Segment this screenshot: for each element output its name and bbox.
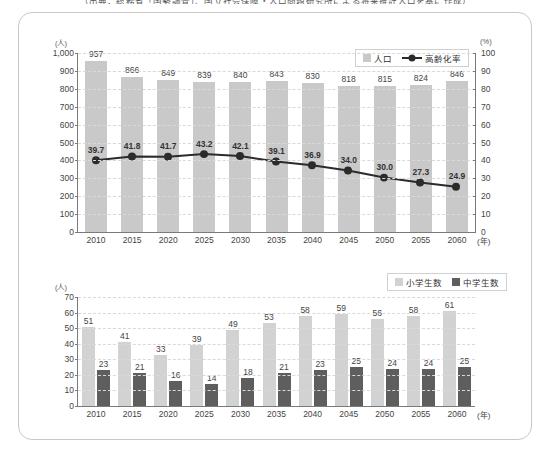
population-bar[interactable] [446, 81, 468, 232]
population-bar[interactable] [121, 77, 143, 232]
axis-tick-mark [473, 160, 476, 161]
chart2-legend: 小学生数 中学生数 [387, 273, 507, 291]
elementary-bar[interactable]: 58 [407, 316, 420, 406]
aging-rate-value-label: 41.7 [160, 141, 177, 151]
elementary-bar[interactable]: 49 [226, 330, 239, 406]
axis-tick-mark [75, 313, 78, 314]
x-axis-tick: 2045 [331, 409, 367, 419]
x-axis-tick: 2040 [295, 235, 331, 245]
gridline [78, 53, 475, 54]
axis-tick-mark [75, 232, 78, 233]
gridline [78, 328, 475, 329]
y-axis-tick: 0 [69, 227, 74, 237]
aging-rate-value-label: 30.0 [376, 162, 393, 172]
gridline [78, 344, 475, 345]
y2-axis-tick: 30 [481, 173, 490, 183]
bar-value-label: 824 [414, 73, 428, 83]
gridline [78, 390, 475, 391]
axis-tick-mark [473, 143, 476, 144]
y2-axis-tick: 40 [481, 155, 490, 165]
aging-rate-value-label: 36.9 [304, 150, 321, 160]
y-axis-tick: 400 [60, 155, 74, 165]
x-axis-tick: 2020 [150, 235, 186, 245]
elementary-bar[interactable]: 56 [371, 319, 384, 406]
population-bar[interactable] [229, 82, 251, 232]
axis-tick-mark [75, 390, 78, 391]
y2-axis-tick: 10 [481, 209, 490, 219]
x-axis-tick: 2050 [367, 235, 403, 245]
y-axis-tick: 800 [60, 84, 74, 94]
gridline [78, 313, 475, 314]
charts-card: (人) (%) 人口 高齢化率 957866849839840843830818… [18, 12, 532, 440]
y-axis-tick: 50 [65, 323, 74, 333]
bar-value-label: 61 [445, 300, 454, 310]
y-axis-tick: 600 [60, 120, 74, 130]
y-axis-tick: 20 [65, 370, 74, 380]
bar-value-label: 41 [120, 331, 129, 341]
elementary-bar[interactable]: 51 [82, 327, 95, 406]
population-bar[interactable] [193, 82, 215, 232]
y-axis-tick: 700 [60, 102, 74, 112]
chart1-right-axis-unit: (%) [480, 37, 492, 46]
chart2-plot-area: 5123412133163914491853215823592556245824… [77, 297, 475, 407]
axis-tick-mark [75, 375, 78, 376]
axis-tick-mark [75, 178, 78, 179]
population-aging-chart: (人) (%) 人口 高齢化率 957866849839840843830818… [33, 31, 519, 257]
aging-rate-value-label: 27.3 [413, 167, 430, 177]
aging-rate-value-label: 39.1 [268, 146, 285, 156]
elementary-bar[interactable]: 58 [299, 316, 312, 406]
x-axis-tick: 2050 [367, 409, 403, 419]
gridline [78, 214, 475, 215]
y-axis-tick: 300 [60, 173, 74, 183]
legend-label-junior-high: 中学生数 [463, 276, 499, 288]
axis-tick-mark [75, 71, 78, 72]
bar-value-label: 25 [351, 356, 360, 366]
y2-axis-tick: 70 [481, 102, 490, 112]
legend-item-junior-high: 中学生数 [452, 276, 499, 288]
gridline [78, 107, 475, 108]
population-bar[interactable] [374, 86, 396, 232]
aging-rate-value-label: 42.1 [232, 141, 249, 151]
junior-high-bar[interactable]: 25 [458, 367, 471, 406]
x-axis-tick: 2045 [331, 235, 367, 245]
bar-value-label: 21 [135, 362, 144, 372]
population-bar[interactable] [157, 80, 179, 232]
chart2-x-axis-unit: (年) [477, 409, 490, 420]
junior-high-bar[interactable]: 25 [350, 367, 363, 406]
junior-high-bar[interactable]: 16 [169, 381, 182, 406]
y2-axis-tick: 80 [481, 84, 490, 94]
junior-high-bar[interactable]: 18 [241, 378, 254, 406]
y2-axis-tick: 60 [481, 120, 490, 130]
axis-tick-mark [75, 89, 78, 90]
axis-tick-mark [75, 328, 78, 329]
bar-value-label: 25 [460, 356, 469, 366]
x-axis-tick: 2015 [114, 409, 150, 419]
axis-tick-mark [75, 344, 78, 345]
y-axis-tick: 500 [60, 138, 74, 148]
x-axis-tick: 2010 [78, 409, 114, 419]
chart1-right-axis-line: 0102030405060708090100 [475, 53, 476, 233]
x-axis-tick: 2025 [186, 409, 222, 419]
axis-tick-mark [473, 125, 476, 126]
x-axis-tick: 2060 [439, 409, 475, 419]
elementary-bar[interactable]: 33 [154, 355, 167, 406]
y-axis-tick: 1,000 [53, 48, 74, 58]
bar-value-label: 23 [315, 359, 324, 369]
y2-axis-tick: 0 [481, 227, 486, 237]
bar-value-label: 830 [306, 71, 320, 81]
bar-value-label: 23 [99, 359, 108, 369]
population-bar[interactable] [266, 81, 288, 232]
axis-tick-mark [473, 232, 476, 233]
y2-axis-tick: 90 [481, 66, 490, 76]
legend-label-elementary: 小学生数 [406, 276, 442, 288]
x-axis-tick: 2035 [258, 409, 294, 419]
y2-axis-tick: 50 [481, 138, 490, 148]
axis-tick-mark [75, 196, 78, 197]
bar-value-label: 818 [342, 74, 356, 84]
gridline [78, 178, 475, 179]
bar-value-label: 815 [378, 74, 392, 84]
junior-high-bar[interactable]: 14 [205, 384, 218, 406]
y2-axis-tick: 20 [481, 191, 490, 201]
elementary-bar[interactable]: 53 [263, 323, 276, 406]
axis-tick-mark [473, 53, 476, 54]
